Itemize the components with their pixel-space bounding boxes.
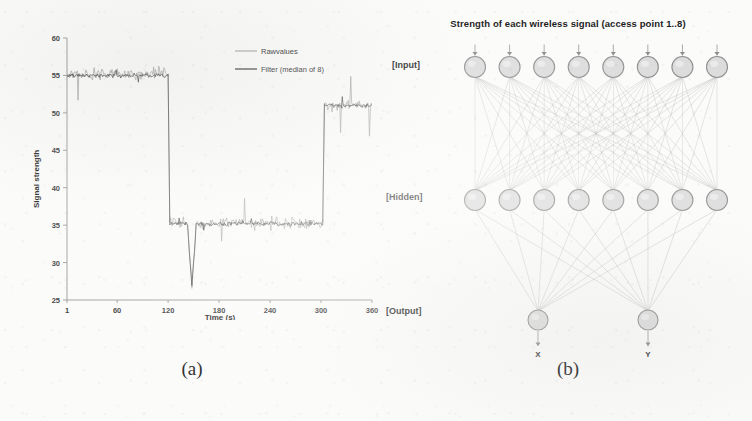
svg-text:240: 240 xyxy=(264,306,277,315)
legend-label-filter: Filter (median of 8) xyxy=(261,65,324,74)
chart-series-group xyxy=(67,66,372,288)
x-axis-title: Time (s) xyxy=(205,313,236,320)
svg-text:55: 55 xyxy=(52,71,60,80)
svg-text:50: 50 xyxy=(52,109,60,118)
panel-a-caption: (a) xyxy=(0,358,384,380)
svg-text:35: 35 xyxy=(52,221,60,230)
figure-panel-b: Strength of each wireless signal (access… xyxy=(384,0,752,421)
chart-legend: Rawvalues Filter (median of 8) xyxy=(235,47,324,74)
edges-input-to-hidden xyxy=(475,77,717,191)
svg-text:120: 120 xyxy=(162,306,175,315)
output-layer-nodes xyxy=(528,310,658,330)
svg-text:60: 60 xyxy=(113,306,121,315)
signal-strength-chart: 2530354045505560 160120180240300360 Sign… xyxy=(30,30,380,320)
panel-b-caption: (b) xyxy=(384,358,752,380)
input-layer-nodes xyxy=(465,57,728,78)
output-arrows xyxy=(535,331,650,346)
svg-text:25: 25 xyxy=(52,296,60,305)
series-rawvalues xyxy=(67,66,372,288)
svg-text:30: 30 xyxy=(52,259,60,268)
svg-text:45: 45 xyxy=(52,146,60,155)
svg-text:360: 360 xyxy=(366,306,379,315)
svg-text:40: 40 xyxy=(52,184,60,193)
edges-hidden-to-output xyxy=(475,210,717,312)
series-filter-median xyxy=(67,70,372,286)
y-axis-title: Signal strength xyxy=(32,150,41,208)
svg-text:1: 1 xyxy=(65,306,69,315)
svg-text:60: 60 xyxy=(52,34,60,43)
hidden-layer-nodes xyxy=(465,190,728,211)
legend-label-rawvalues: Rawvalues xyxy=(261,47,298,56)
y-axis-ticks: 2530354045505560 xyxy=(52,34,67,305)
input-arrows xyxy=(472,45,719,56)
figure-panel-a: 2530354045505560 160120180240300360 Sign… xyxy=(0,0,384,421)
chart-svg: 2530354045505560 160120180240300360 Sign… xyxy=(30,30,380,320)
svg-text:300: 300 xyxy=(315,306,328,315)
